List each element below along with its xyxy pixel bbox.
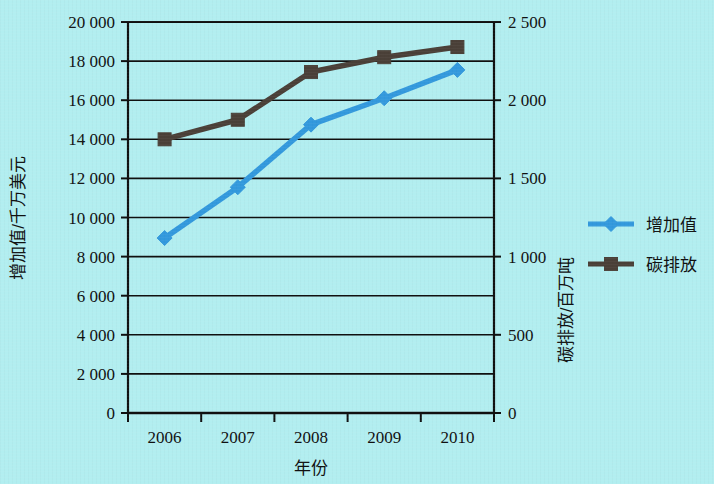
right-axis-tick-label: 2 000: [508, 91, 546, 110]
x-axis-tick-label: 2006: [148, 428, 182, 447]
x-axis-title: 年份: [294, 459, 328, 478]
left-axis-tick-label: 12 000: [68, 169, 115, 188]
left-axis-tick-label: 16 000: [68, 91, 115, 110]
left-axis-tick-label: 8 000: [77, 248, 115, 267]
data-point-carbon: [378, 51, 391, 64]
left-axis-title: 增加值/千万美元: [9, 156, 28, 280]
legend-label: 碳排放: [646, 256, 697, 275]
x-axis-tick-label: 2010: [440, 428, 474, 447]
left-axis-tick-label: 14 000: [68, 130, 115, 149]
data-point-carbon: [158, 133, 171, 146]
x-axis-tick-label: 2007: [221, 428, 256, 447]
left-axis-tick-label: 2 000: [77, 365, 115, 384]
data-point-carbon: [451, 41, 464, 54]
right-axis-tick-label: 1 000: [508, 248, 546, 267]
right-axis-tick-label: 500: [508, 326, 534, 345]
left-axis-tick-label: 6 000: [77, 287, 115, 306]
right-axis-tick-label: 0: [508, 404, 517, 423]
left-axis-tick-label: 18 000: [68, 52, 115, 71]
x-axis-tick-label: 2009: [367, 428, 401, 447]
right-axis-title: 碳排放/百万吨: [557, 257, 576, 364]
x-axis-tick-label: 2008: [294, 428, 328, 447]
right-axis-tick-label: 2 500: [508, 13, 546, 32]
data-point-carbon: [305, 66, 318, 79]
legend-label: 增加值: [646, 216, 697, 235]
legend-marker-square-icon: [605, 258, 618, 271]
left-axis-tick-label: 20 000: [68, 13, 115, 32]
left-axis-tick-label: 10 000: [68, 209, 115, 228]
left-axis-tick-label: 4 000: [77, 326, 115, 345]
right-axis-tick-label: 1 500: [508, 169, 546, 188]
data-point-carbon: [231, 113, 244, 126]
chart-figure: 02 0004 0006 0008 00010 00012 00014 0001…: [0, 0, 714, 484]
left-axis-tick-label: 0: [107, 404, 116, 423]
line-chart: 02 0004 0006 0008 00010 00012 00014 0001…: [0, 0, 714, 484]
